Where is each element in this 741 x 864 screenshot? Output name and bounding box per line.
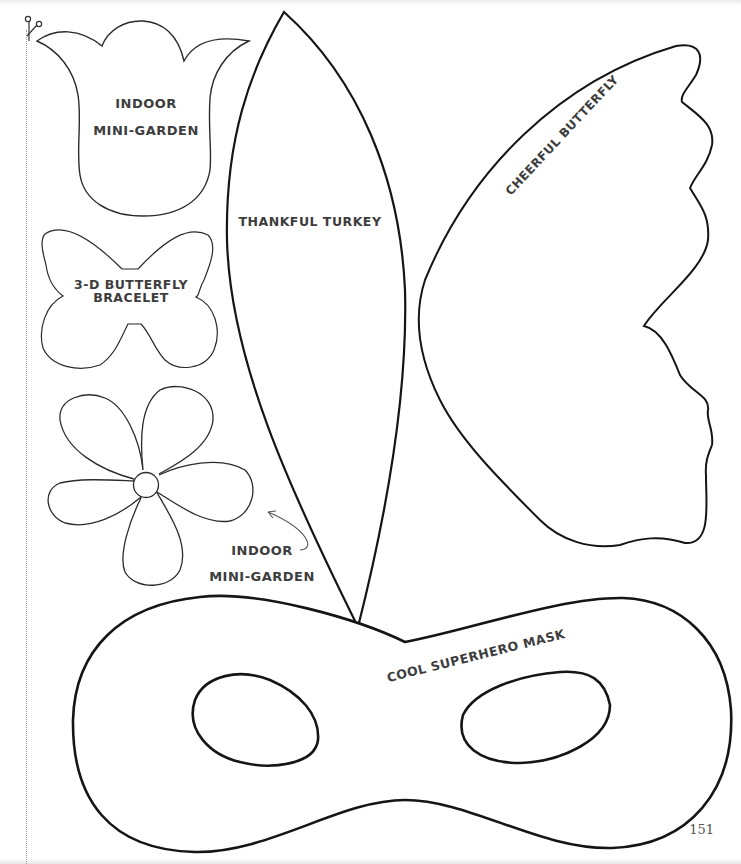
- page-number: 151: [689, 822, 714, 837]
- template-page: INDOOR MINI-GARDEN 3-D BUTTERFLY BRACELE…: [0, 0, 741, 864]
- superhero-mask-template[interactable]: [73, 596, 731, 852]
- turkey-feather-label: THANKFUL TURKEY: [239, 214, 382, 229]
- turkey-feather-template[interactable]: [227, 12, 405, 627]
- scissors-icon: [25, 16, 41, 41]
- flower-template[interactable]: [48, 387, 253, 586]
- flower-label-line2: MINI-GARDEN: [209, 569, 315, 584]
- template-shapes: INDOOR MINI-GARDEN 3-D BUTTERFLY BRACELE…: [0, 0, 741, 864]
- tulip-label-line2: MINI-GARDEN: [93, 123, 199, 138]
- tulip-label-line1: INDOOR: [115, 96, 177, 111]
- tulip-template[interactable]: [37, 21, 249, 216]
- butterfly-bracelet-label-line2: BRACELET: [93, 290, 169, 305]
- flower-label-line1: INDOOR: [231, 543, 293, 558]
